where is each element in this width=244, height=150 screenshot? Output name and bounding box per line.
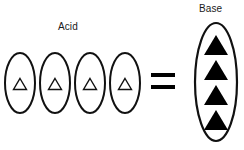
base-group [195,23,237,141]
acid-particle-4 [110,53,140,113]
equals-sign [151,73,175,89]
acid-particle-3 [75,53,105,113]
equals-bar-bottom [151,85,175,89]
acid-particle-1 [5,53,35,113]
diagram-canvas [0,0,244,150]
acid-group [5,53,140,113]
equals-bar-top [151,73,175,77]
acid-particle-2 [40,53,70,113]
